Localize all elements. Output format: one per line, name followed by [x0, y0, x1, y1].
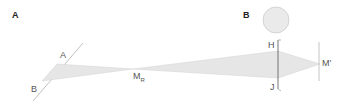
point-label-m-prime: M' [322, 59, 331, 68]
panel-label-a: A [12, 11, 19, 20]
point-label-b: B [31, 85, 37, 94]
point-label-j: J [270, 83, 275, 92]
panel-label-b: B [243, 11, 250, 20]
ray-bundle-right [133, 51, 320, 78]
point-label-a: A [60, 51, 66, 60]
diagram-canvas [0, 0, 344, 104]
ray-bundle-left [42, 64, 133, 81]
circle-icon [263, 7, 289, 33]
point-label-m-subscript: R [141, 77, 145, 83]
point-label-m-r: MR [133, 72, 145, 83]
point-label-h: H [268, 41, 275, 50]
point-label-m: M [133, 71, 141, 81]
tick-j [278, 89, 281, 91]
